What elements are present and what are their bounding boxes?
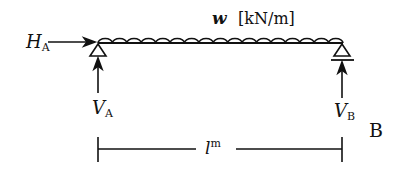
horizontal-reaction-label: HA	[25, 31, 51, 54]
horizontal-reaction-arrow	[48, 38, 95, 46]
left-vertical-reaction-label: VA	[92, 97, 114, 120]
right-vertical-reaction-label: VB	[334, 100, 355, 123]
pin-support-left	[90, 44, 106, 56]
right-vertical-reaction-arrow	[338, 62, 346, 98]
left-vertical-reaction-arrow	[94, 58, 102, 93]
span-label: lm	[205, 137, 221, 158]
roller-support-right	[331, 44, 354, 60]
support-b-label: B	[369, 119, 383, 141]
beam-diagram: w [kN/m] HA VA VB B	[0, 0, 394, 182]
load-unit: [kN/m]	[238, 9, 295, 28]
load-symbol: w	[212, 8, 228, 28]
load-label: w [kN/m]	[212, 8, 295, 28]
